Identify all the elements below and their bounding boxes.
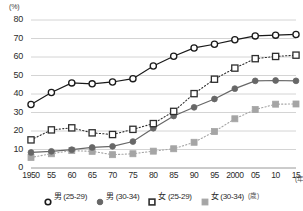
legend-item[interactable]: 男 (25-29) <box>44 190 87 201</box>
data-point <box>273 32 279 38</box>
data-point <box>211 76 217 82</box>
data-point <box>130 76 136 82</box>
legend-item[interactable]: 男 (30-34) <box>96 190 139 201</box>
y-axis-tick-label: 40 <box>3 88 23 98</box>
chart-plot-area <box>0 0 303 182</box>
data-point <box>69 147 75 153</box>
data-point <box>130 151 136 157</box>
data-point <box>28 150 34 156</box>
data-point <box>28 137 34 143</box>
legend-item-label: 男 (30-34) <box>106 190 139 201</box>
data-point <box>252 78 258 84</box>
legend-item-label: 女 (25-29) <box>158 190 191 201</box>
filled-square-icon <box>201 192 208 199</box>
y-axis-tick-label: 30 <box>3 107 23 117</box>
data-point <box>212 96 218 102</box>
data-point <box>89 81 95 87</box>
data-point <box>211 41 217 47</box>
data-point <box>211 129 217 135</box>
chart-svg <box>0 0 303 182</box>
chart-legend: 男 (25-29)男 (30-34)女 (25-29)女 (30-34)(歳) <box>0 185 303 205</box>
chart-page: (%) 男 (25-29)男 (30-34)女 (25-29)女 (30-34)… <box>0 0 303 211</box>
data-point <box>293 101 299 107</box>
legend-item[interactable]: 女 (25-29) <box>148 190 191 201</box>
data-point <box>69 80 75 86</box>
data-point <box>293 78 299 84</box>
y-axis-tick-label: 80 <box>3 14 23 24</box>
data-point <box>273 53 279 59</box>
legend-item-label: 女 (30-34) <box>211 190 244 201</box>
legend-unit-label: (歳) <box>248 190 259 200</box>
data-point <box>232 116 238 122</box>
data-point <box>191 45 197 51</box>
data-point <box>273 78 279 84</box>
data-point <box>110 152 116 158</box>
x-axis-unit-label: (年) <box>295 173 303 183</box>
data-point <box>69 125 75 131</box>
data-point <box>89 145 95 151</box>
y-axis-tick-label: 50 <box>3 70 23 80</box>
data-point <box>191 139 197 145</box>
data-point <box>171 53 177 59</box>
y-axis-tick-label: 70 <box>3 33 23 43</box>
data-point <box>252 107 258 113</box>
data-point <box>232 86 238 92</box>
legend-item[interactable]: 女 (30-34) <box>201 190 244 201</box>
y-axis-tick-label: 20 <box>3 125 23 135</box>
data-point <box>252 33 258 39</box>
y-axis-tick-label: 60 <box>3 51 23 61</box>
data-point <box>150 148 156 154</box>
data-point <box>48 127 54 133</box>
data-point <box>109 79 115 85</box>
y-axis-tick-label: 10 <box>3 144 23 154</box>
data-point <box>293 52 299 58</box>
data-point <box>232 65 238 71</box>
data-point <box>191 104 197 110</box>
legend-item-label: 男 (25-29) <box>54 190 87 201</box>
data-point <box>232 37 238 43</box>
data-point <box>48 148 54 154</box>
open-circle-icon <box>44 192 51 199</box>
data-point <box>89 130 95 136</box>
data-point <box>171 146 177 152</box>
data-point <box>171 108 177 114</box>
series-line <box>31 81 296 153</box>
data-point <box>293 31 299 37</box>
data-point <box>150 63 156 69</box>
data-point <box>130 126 136 132</box>
filled-circle-icon <box>96 192 103 199</box>
data-point <box>252 56 258 62</box>
data-point <box>150 121 156 127</box>
open-square-icon <box>148 192 155 199</box>
data-point <box>48 89 54 95</box>
data-point <box>28 101 34 107</box>
data-point <box>191 91 197 97</box>
data-point <box>273 101 279 107</box>
data-point <box>109 131 115 137</box>
data-point <box>130 139 136 145</box>
data-point <box>110 143 116 149</box>
